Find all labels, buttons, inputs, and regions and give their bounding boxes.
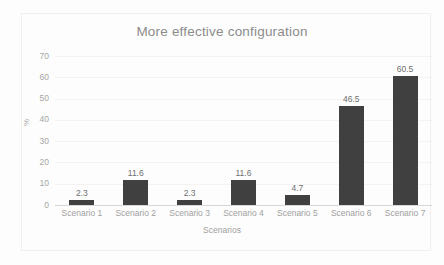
bar-value-label: 46.5 [324,94,378,104]
bar-group[interactable]: 11.6 [109,56,163,205]
x-axis-category-label: Scenario 6 [324,208,378,218]
bar-group[interactable]: 2.3 [55,56,109,205]
y-axis-tick-label: 30 [15,137,49,146]
x-axis-title: Scenarios [0,225,444,235]
bar[interactable] [285,195,310,205]
bar-value-label: 2.3 [55,188,109,198]
bar[interactable] [393,76,418,205]
plot-area: 2.311.62.311.64.746.560.5 [55,56,432,205]
x-axis-line [55,205,432,206]
bar-value-label: 11.6 [217,168,271,178]
bar-group[interactable]: 46.5 [324,56,378,205]
bar-value-label: 60.5 [378,64,432,74]
chart-container: More effective configuration % 2.311.62.… [0,0,444,265]
x-axis-category-label: Scenario 2 [109,208,163,218]
y-axis-tick-label: 0 [15,201,49,210]
bar[interactable] [123,180,148,205]
x-axis-category-label: Scenario 5 [270,208,324,218]
y-axis-tick-label: 20 [15,158,49,167]
bar-value-label: 4.7 [270,183,324,193]
bar-value-label: 2.3 [163,188,217,198]
y-axis-tick-label: 50 [15,94,49,103]
bar-group[interactable]: 2.3 [163,56,217,205]
chart-title: More effective configuration [0,24,444,39]
bar-group[interactable]: 60.5 [378,56,432,205]
x-axis-category-label: Scenario 7 [378,208,432,218]
bar[interactable] [231,180,256,205]
y-axis-tick-label: 60 [15,73,49,82]
x-axis-category-label: Scenario 1 [55,208,109,218]
bar-group[interactable]: 11.6 [217,56,271,205]
y-axis-tick-label: 40 [15,115,49,124]
bar-group[interactable]: 4.7 [270,56,324,205]
y-axis-tick-label: 10 [15,179,49,188]
y-axis-tick-label: 70 [15,52,49,61]
bar-value-label: 11.6 [109,168,163,178]
x-axis-category-label: Scenario 4 [217,208,271,218]
x-axis-category-label: Scenario 3 [163,208,217,218]
bar[interactable] [339,106,364,205]
